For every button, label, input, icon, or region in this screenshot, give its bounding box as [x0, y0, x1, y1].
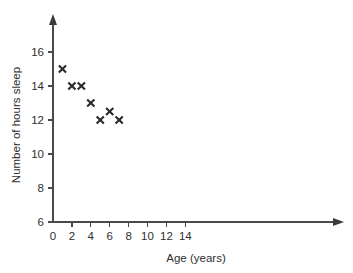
- y-tick-label: 16: [31, 46, 44, 58]
- x-tick-label: 12: [160, 230, 173, 242]
- y-tick-label: 14: [31, 80, 44, 92]
- y-tick-label: 6: [38, 216, 44, 228]
- scatter-plot-figure: 6810121416 02468101214 Age (years) Numbe…: [0, 0, 353, 273]
- x-tick-label: 6: [106, 230, 112, 242]
- x-tick-label: 4: [88, 230, 95, 242]
- x-tick-label: 0: [50, 230, 56, 242]
- y-axis-title: Number of hours sleep: [10, 67, 22, 183]
- x-tick-label: 2: [69, 230, 75, 242]
- x-tick-label: 8: [125, 230, 131, 242]
- y-tick-label: 12: [31, 114, 44, 126]
- x-tick-label: 14: [179, 230, 192, 242]
- y-tick-label: 10: [31, 148, 44, 160]
- chart-canvas: 6810121416 02468101214 Age (years) Numbe…: [0, 0, 353, 273]
- x-axis-title: Age (years): [166, 252, 226, 264]
- y-tick-label: 8: [38, 182, 44, 194]
- x-tick-label: 10: [141, 230, 154, 242]
